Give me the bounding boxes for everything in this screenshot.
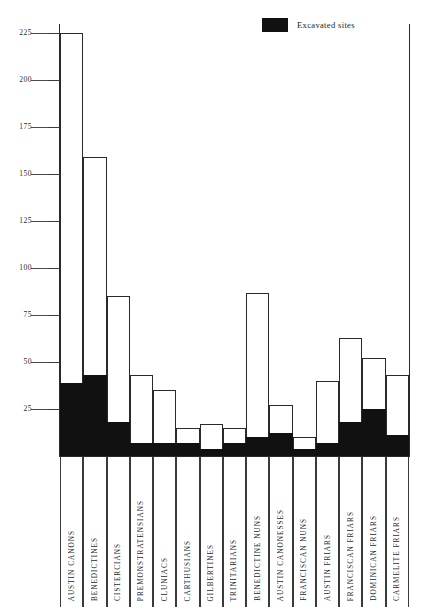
bar-excavated[interactable] xyxy=(362,409,385,456)
category-label-cell: CLUNIACS xyxy=(153,457,176,607)
y-tick-leader xyxy=(31,33,48,34)
bar-group[interactable] xyxy=(176,24,199,456)
bar-excavated[interactable] xyxy=(153,443,176,456)
category-label: DOMINICAN FRIARS xyxy=(370,515,378,601)
bar-excavated[interactable] xyxy=(223,443,246,456)
category-label: FRANCISCAN NUNS xyxy=(300,518,308,601)
bar-group[interactable] xyxy=(339,24,362,456)
bar-group[interactable] xyxy=(60,24,83,456)
bar-excavated[interactable] xyxy=(83,375,106,456)
bar-group[interactable] xyxy=(223,24,246,456)
category-label-cell: PREMONSTRATENSIANS xyxy=(130,457,153,607)
bar-group[interactable] xyxy=(153,24,176,456)
y-tick-label: 100 xyxy=(6,263,32,272)
bar-excavated[interactable] xyxy=(60,383,83,456)
bar-group[interactable] xyxy=(130,24,153,456)
bar-excavated[interactable] xyxy=(246,437,269,456)
y-tick-mark xyxy=(47,362,60,363)
category-label: BENEDICTINES xyxy=(91,537,99,601)
y-tick-leader xyxy=(31,174,48,175)
category-label: FRANCISCAN FRIARS xyxy=(347,511,355,601)
y-tick-leader xyxy=(31,80,48,81)
y-tick-label: 150 xyxy=(6,169,32,178)
category-label-row: AUSTIN CANONSBENEDICTINESCISTERCIANSPREM… xyxy=(60,457,409,607)
bar-group[interactable] xyxy=(386,24,409,456)
bar-group[interactable] xyxy=(83,24,106,456)
bar-excavated[interactable] xyxy=(339,422,362,456)
category-label-cell: BENEDICTINE NUNS xyxy=(246,457,269,607)
bar-excavated[interactable] xyxy=(107,422,130,456)
y-tick-mark xyxy=(47,221,60,222)
y-tick-leader xyxy=(31,221,48,222)
category-label-cell: FRANCISCAN FRIARS xyxy=(339,457,362,607)
bar-chart: Excavated sites 255075100125150175200225… xyxy=(0,0,423,615)
category-label: GILBERTINES xyxy=(207,544,215,601)
category-label: CLUNIACS xyxy=(161,557,169,601)
y-tick-label: 200 xyxy=(6,75,32,84)
category-label: AUSTIN FRIARS xyxy=(324,534,332,601)
bar-group[interactable] xyxy=(293,24,316,456)
category-label-cell: DOMINICAN FRIARS xyxy=(362,457,385,607)
category-label-cell: CARTHUSIANS xyxy=(176,457,199,607)
bar-group[interactable] xyxy=(316,24,339,456)
bar-excavated[interactable] xyxy=(200,449,223,457)
y-tick-leader xyxy=(31,362,48,363)
bar-total[interactable] xyxy=(246,293,269,456)
y-tick-mark xyxy=(47,33,60,34)
bar-group[interactable] xyxy=(200,24,223,456)
plot-area xyxy=(60,24,409,456)
bar-group[interactable] xyxy=(269,24,292,456)
bar-excavated[interactable] xyxy=(269,433,292,456)
bar-excavated[interactable] xyxy=(386,435,409,456)
category-label-cell: AUSTIN FRIARS xyxy=(316,457,339,607)
category-label-cell: CISTERCIANS xyxy=(107,457,130,607)
category-label-cell: GILBERTINES xyxy=(200,457,223,607)
y-tick-label: 225 xyxy=(6,28,32,37)
bar-excavated[interactable] xyxy=(293,449,316,457)
bar-excavated[interactable] xyxy=(176,443,199,456)
y-tick-label: 175 xyxy=(6,122,32,131)
y-tick-mark xyxy=(47,80,60,81)
category-label: PREMONSTRATENSIANS xyxy=(137,500,145,601)
category-label-cell: TRINITARIANS xyxy=(223,457,246,607)
bar-group[interactable] xyxy=(362,24,385,456)
bar-excavated[interactable] xyxy=(130,443,153,456)
y-tick-label: 75 xyxy=(6,310,32,319)
y-tick-mark xyxy=(47,174,60,175)
category-label: TRINITARIANS xyxy=(230,539,238,601)
bar-group[interactable] xyxy=(246,24,269,456)
category-label-cell: BENEDICTINES xyxy=(83,457,106,607)
category-label: AUSTIN CANONS xyxy=(68,530,76,601)
y-tick-mark xyxy=(47,315,60,316)
category-label-cell: FRANCISCAN NUNS xyxy=(293,457,316,607)
y-tick-label: 125 xyxy=(6,216,32,225)
bar-excavated[interactable] xyxy=(316,443,339,456)
right-axis-line xyxy=(409,24,410,457)
category-label: CARMELITE FRIARS xyxy=(393,516,401,601)
category-label: CARTHUSIANS xyxy=(184,540,192,601)
y-tick-label: 25 xyxy=(6,404,32,413)
category-label-cell: AUSTIN CANONS xyxy=(60,457,83,607)
category-label: BENEDICTINE NUNS xyxy=(254,515,262,601)
y-tick-leader xyxy=(31,315,48,316)
category-label: AUSTIN CANONESSES xyxy=(277,509,285,601)
category-label-cell: AUSTIN CANONESSES xyxy=(269,457,292,607)
y-tick-mark xyxy=(47,127,60,128)
y-tick-leader xyxy=(31,127,48,128)
y-tick-mark xyxy=(47,268,60,269)
y-tick-mark xyxy=(47,409,60,410)
y-tick-leader xyxy=(31,409,48,410)
bar-group[interactable] xyxy=(107,24,130,456)
y-tick-label: 50 xyxy=(6,357,32,366)
y-tick-leader xyxy=(31,268,48,269)
category-label: CISTERCIANS xyxy=(114,543,122,601)
category-label-cell: CARMELITE FRIARS xyxy=(386,457,409,607)
